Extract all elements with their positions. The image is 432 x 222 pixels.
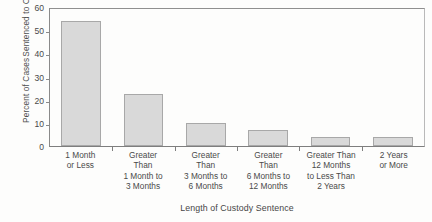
y-axis-tick-mark	[46, 79, 50, 80]
bar	[311, 137, 351, 146]
x-axis-category-label-line: 6 Months to	[238, 171, 299, 181]
x-axis-category-label-line: 1 Month	[50, 150, 111, 160]
bar	[124, 94, 164, 146]
x-axis-category-label: GreaterThan3 Months to6 Months	[174, 150, 237, 202]
x-axis-category-label: 1 Monthor Less	[49, 150, 112, 202]
x-axis-category-label-line: to Less Than	[301, 171, 362, 181]
bar-slot	[237, 9, 299, 146]
y-axis-tick-mark	[46, 125, 50, 126]
x-axis-category-label-line: 3 Months to	[175, 171, 236, 181]
x-axis-category-labels: 1 Monthor LessGreaterThan1 Month to3 Mon…	[49, 150, 425, 202]
y-axis-tick-mark	[46, 55, 50, 56]
x-axis-category-label-line: Than	[175, 160, 236, 170]
bar-slot	[50, 9, 112, 146]
bar	[186, 123, 226, 146]
x-axis-category-label: GreaterThan6 Months to12 Months	[237, 150, 300, 202]
bar-chart: Percent of Cases Sentenced to Custody 01…	[0, 0, 432, 222]
y-axis-tick-labels: 0102030405060	[18, 0, 44, 222]
x-axis-category-label-line: or Less	[50, 160, 111, 170]
x-axis-category-label-line: 3 Months	[113, 181, 174, 191]
x-axis-category-label-line: Greater Than	[301, 150, 362, 160]
x-axis-category-label-line: 2 Years	[301, 181, 362, 191]
x-axis-category-label-line: 6 Months	[175, 181, 236, 191]
x-axis-category-label-line: Greater	[238, 150, 299, 160]
y-axis-tick-mark	[46, 102, 50, 103]
plot-area	[49, 8, 425, 147]
y-axis-tick-label: 40	[22, 50, 44, 59]
bar-series	[50, 9, 424, 146]
x-axis-category-label-line: 2 Years	[363, 150, 424, 160]
y-axis-tick-label: 10	[22, 119, 44, 128]
y-axis-tick-label: 0	[22, 143, 44, 152]
y-axis-tick-label: 50	[22, 27, 44, 36]
x-axis-category-label-line: Greater	[113, 150, 174, 160]
y-axis-tick-mark	[46, 32, 50, 33]
y-axis-tick-label: 30	[22, 73, 44, 82]
bar-slot	[112, 9, 174, 146]
x-axis-category-label: 2 Yearsor More	[362, 150, 425, 202]
x-axis-category-label: Greater Than12 Monthsto Less Than2 Years	[300, 150, 363, 202]
y-axis-tick-label: 20	[22, 96, 44, 105]
y-axis-tick-label: 60	[22, 4, 44, 13]
x-axis-title: Length of Custody Sentence	[49, 203, 425, 214]
bar-slot	[175, 9, 237, 146]
bar-slot	[362, 9, 424, 146]
x-axis-category-label-line: Than	[238, 160, 299, 170]
x-axis-category-label: GreaterThan1 Month to3 Months	[112, 150, 175, 202]
x-axis-category-label-line: 12 Months	[238, 181, 299, 191]
x-axis-category-label-line: 1 Month to	[113, 171, 174, 181]
x-axis-category-label-line: Greater	[175, 150, 236, 160]
x-axis-category-label-line: Than	[113, 160, 174, 170]
bar	[248, 130, 288, 146]
bar	[373, 137, 413, 146]
bar-slot	[299, 9, 361, 146]
x-axis-category-label-line: 12 Months	[301, 160, 362, 170]
bar	[61, 21, 101, 146]
x-axis-category-label-line: or More	[363, 160, 424, 170]
